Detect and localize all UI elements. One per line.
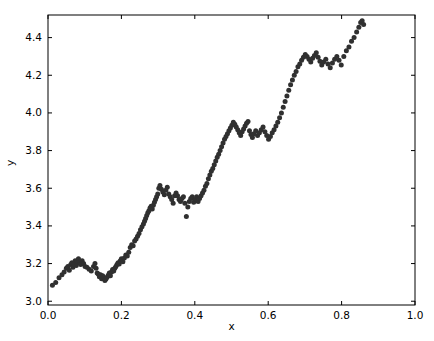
y-tick-label: 3.6	[25, 182, 42, 194]
data-point	[284, 93, 289, 98]
x-tick-label: 0.8	[333, 309, 350, 321]
data-point	[361, 22, 366, 27]
x-tick-label: 0.0	[40, 309, 57, 321]
data-point	[356, 25, 361, 30]
data-point	[354, 29, 359, 34]
data-point	[286, 88, 291, 93]
data-point	[92, 261, 97, 266]
x-tick-label: 0.4	[186, 309, 203, 321]
data-point	[337, 58, 342, 63]
data-point	[283, 99, 288, 104]
data-point	[131, 243, 136, 248]
data-point	[275, 120, 280, 125]
data-point	[339, 62, 344, 67]
data-point	[323, 57, 328, 62]
data-point	[162, 192, 167, 197]
data-point	[346, 45, 351, 50]
data-point	[294, 69, 299, 74]
x-tick-label: 0.6	[260, 309, 277, 321]
data-point	[181, 194, 186, 199]
y-tick-label: 4.4	[25, 31, 42, 43]
data-point	[314, 50, 319, 55]
data-point	[184, 214, 189, 219]
data-point	[53, 280, 58, 285]
data-point	[288, 82, 293, 87]
scatter-plot: 0.00.20.40.60.81.0 3.03.23.43.63.84.04.2…	[0, 0, 434, 341]
data-point	[185, 205, 190, 210]
x-tick-label: 1.0	[407, 309, 424, 321]
y-tick-label: 3.2	[25, 257, 42, 269]
data-point	[94, 266, 99, 271]
x-axis-title: x	[228, 320, 234, 332]
data-point	[279, 110, 284, 115]
data-point	[155, 191, 160, 196]
y-axis-title: y	[4, 160, 16, 166]
y-tick-label: 3.8	[25, 144, 42, 156]
data-point	[246, 119, 251, 124]
data-point	[165, 185, 170, 190]
data-point	[290, 77, 295, 82]
data-point	[328, 65, 333, 70]
figure-canvas: 0.00.20.40.60.81.0 3.03.23.43.63.84.04.2…	[0, 0, 434, 341]
y-tick-label: 4.0	[25, 106, 42, 118]
data-point	[171, 201, 176, 206]
data-point	[261, 125, 266, 130]
data-point	[89, 269, 94, 274]
data-point	[281, 105, 286, 110]
x-tick-label: 0.2	[113, 309, 130, 321]
y-tick-label: 4.2	[25, 69, 42, 81]
data-point	[341, 54, 346, 59]
figure-background	[0, 0, 434, 341]
data-point	[204, 181, 209, 186]
y-tick-label: 3.4	[25, 219, 42, 231]
data-point	[352, 35, 357, 40]
y-tick-label: 3.0	[25, 295, 42, 307]
data-point	[277, 115, 282, 120]
data-point	[126, 250, 131, 255]
